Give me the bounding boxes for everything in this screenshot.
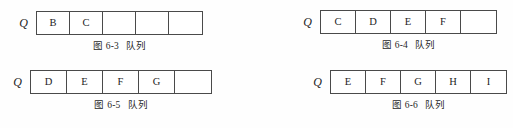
queue-cell: C: [321, 11, 356, 33]
queue-label-q: Q: [12, 76, 22, 88]
queue-label-q: Q: [18, 17, 28, 29]
caption-word: 队列: [415, 40, 435, 50]
figure-6-3: Q B C 图 6-3队列: [18, 11, 203, 52]
queue-row: Q C D E F: [302, 10, 497, 34]
figure-caption: 图 6-5队列: [12, 101, 212, 111]
queue-cell: C: [70, 12, 103, 34]
queue-cell: D: [356, 11, 391, 33]
figure-6-5: Q D E F G 图 6-5队列: [12, 70, 212, 111]
figure-caption: 图 6-4队列: [302, 41, 497, 51]
queue-cell: I: [471, 71, 506, 93]
queue-cell-empty: [461, 11, 496, 33]
caption-word: 队列: [425, 100, 445, 110]
queue-cells: D E F G: [30, 70, 212, 94]
queue-cell: D: [31, 71, 67, 93]
figure-caption: 图 6-3队列: [18, 42, 203, 52]
queue-cells: C D E F: [320, 10, 497, 34]
queue-cell-empty: [103, 12, 136, 34]
queue-cell-empty: [169, 12, 202, 34]
queue-cell: F: [366, 71, 401, 93]
caption-word: 队列: [128, 100, 148, 110]
queue-row: Q B C: [18, 11, 203, 35]
queue-label-q: Q: [302, 16, 312, 28]
queue-cell: G: [139, 71, 175, 93]
figure-6-4: Q C D E F 图 6-4队列: [302, 10, 497, 51]
queue-cells: E F G H I: [330, 70, 507, 94]
figure-6-6: Q E F G H I 图 6-6队列: [312, 70, 507, 111]
queue-cell: E: [391, 11, 426, 33]
figure-caption: 图 6-6队列: [312, 101, 507, 111]
queue-cell: E: [331, 71, 366, 93]
caption-number: 图 6-3: [93, 41, 119, 51]
queue-cell: E: [67, 71, 103, 93]
caption-number: 图 6-6: [392, 100, 418, 110]
queue-cell: F: [103, 71, 139, 93]
queue-row: Q E F G H I: [312, 70, 507, 94]
figure-sheet: Q B C 图 6-3队列 Q C D E F 图 6-4队: [0, 0, 513, 128]
queue-label-q: Q: [312, 76, 322, 88]
queue-cell-empty: [136, 12, 169, 34]
queue-cell-empty: [175, 71, 211, 93]
queue-row: Q D E F G: [12, 70, 212, 94]
caption-number: 图 6-5: [94, 100, 120, 110]
queue-cells: B C: [36, 11, 203, 35]
caption-word: 队列: [126, 41, 146, 51]
queue-cell: F: [426, 11, 461, 33]
queue-cell: G: [401, 71, 436, 93]
caption-number: 图 6-4: [382, 40, 408, 50]
queue-cell: H: [436, 71, 471, 93]
queue-cell: B: [37, 12, 70, 34]
